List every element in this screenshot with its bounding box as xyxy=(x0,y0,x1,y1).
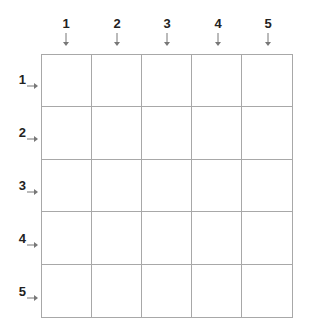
grid-cell-r1-c2 xyxy=(92,55,142,107)
grid-cell-r4-c3 xyxy=(142,212,192,264)
down-arrow-icon xyxy=(263,33,273,47)
grid-cell-r4-c5 xyxy=(242,212,292,264)
grid-cell-r2-c5 xyxy=(242,107,292,159)
right-arrow-icon xyxy=(27,288,39,296)
column-label-5: 5 xyxy=(258,16,278,31)
right-arrow-icon xyxy=(27,235,39,243)
grid-cell-r5-c3 xyxy=(142,265,192,317)
grid-cell-r2-c4 xyxy=(192,107,242,159)
grid-cell-r2-c2 xyxy=(92,107,142,159)
grid-cell-r2-c1 xyxy=(42,107,92,159)
grid-cell-r1-c1 xyxy=(42,55,92,107)
column-label-4: 4 xyxy=(208,16,228,31)
down-arrow-icon xyxy=(213,33,223,47)
grid-cell-r1-c3 xyxy=(142,55,192,107)
grid-cell-r1-c5 xyxy=(242,55,292,107)
row-label-3: 3 xyxy=(16,178,26,193)
column-label-2: 2 xyxy=(107,16,127,31)
grid-cell-r3-c2 xyxy=(92,160,142,212)
down-arrow-icon xyxy=(61,33,71,47)
grid-cell-r5-c2 xyxy=(92,265,142,317)
right-arrow-icon xyxy=(27,129,39,137)
grid-cell-r1-c4 xyxy=(192,55,242,107)
grid-cell-r3-c1 xyxy=(42,160,92,212)
down-arrow-icon xyxy=(112,33,122,47)
grid-cell-r4-c2 xyxy=(92,212,142,264)
grid-5x5 xyxy=(41,54,293,318)
grid-cell-r3-c4 xyxy=(192,160,242,212)
grid-cell-r5-c5 xyxy=(242,265,292,317)
column-label-3: 3 xyxy=(157,16,177,31)
grid-cell-r3-c3 xyxy=(142,160,192,212)
grid-cell-r3-c5 xyxy=(242,160,292,212)
down-arrow-icon xyxy=(162,33,172,47)
grid-cell-r5-c1 xyxy=(42,265,92,317)
grid-cell-r4-c1 xyxy=(42,212,92,264)
column-label-1: 1 xyxy=(56,16,76,31)
row-label-5: 5 xyxy=(16,284,26,299)
right-arrow-icon xyxy=(27,76,39,84)
grid-cell-r5-c4 xyxy=(192,265,242,317)
row-label-4: 4 xyxy=(16,231,26,246)
row-label-2: 2 xyxy=(16,125,26,140)
right-arrow-icon xyxy=(27,182,39,190)
grid-cell-r2-c3 xyxy=(142,107,192,159)
grid-cell-r4-c4 xyxy=(192,212,242,264)
row-label-1: 1 xyxy=(16,72,26,87)
